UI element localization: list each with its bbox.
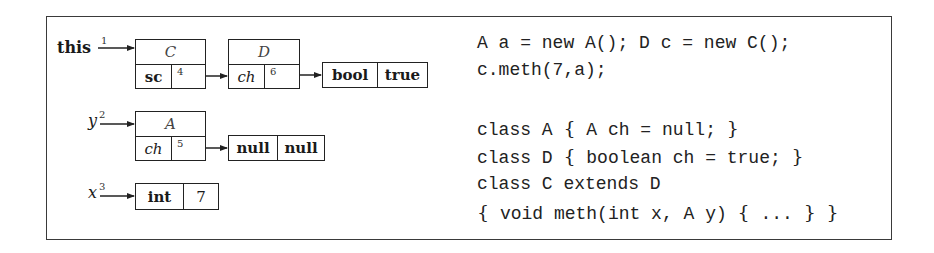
open-brace: { bbox=[563, 117, 575, 139]
object-a-class: A bbox=[136, 112, 205, 136]
close-brace: } bbox=[827, 201, 839, 223]
value-null-value: null bbox=[278, 136, 324, 160]
open-brace: { bbox=[563, 145, 575, 167]
open-brace: { bbox=[477, 201, 489, 223]
code-text: A ch = null; bbox=[576, 120, 727, 140]
value-int: int 7 bbox=[135, 183, 219, 210]
value-bool-value: true bbox=[378, 63, 427, 87]
code-line-2: c.meth(7,a); bbox=[477, 61, 607, 79]
close-brace: } bbox=[727, 117, 739, 139]
code-text: class A bbox=[477, 120, 563, 140]
value-bool: bool true bbox=[322, 62, 428, 88]
object-a: A ch 5 bbox=[135, 111, 206, 161]
code-line-class-c: class C extends D bbox=[477, 175, 661, 193]
divider bbox=[171, 64, 172, 88]
ref-y-index: 2 bbox=[99, 109, 105, 120]
ref-x-index: 3 bbox=[99, 181, 105, 192]
object-d-field-ref: 6 bbox=[270, 66, 276, 77]
ref-y-label: y bbox=[88, 111, 97, 130]
object-c-class: C bbox=[136, 40, 205, 64]
object-d-field-ch: ch bbox=[229, 65, 264, 88]
code-text: boolean ch = true; bbox=[576, 148, 792, 168]
code-text bbox=[816, 204, 827, 224]
object-d: D ch 6 bbox=[228, 39, 300, 89]
ref-this-label: this bbox=[57, 38, 91, 57]
value-int-value: 7 bbox=[184, 184, 218, 209]
value-bool-type: bool bbox=[323, 63, 377, 87]
code-text: void meth(int x, A y) bbox=[489, 204, 737, 224]
close-brace: } bbox=[804, 201, 816, 223]
value-int-type: int bbox=[136, 184, 183, 209]
ref-x-label: x bbox=[88, 183, 97, 202]
open-brace: { bbox=[738, 201, 750, 223]
object-c-field-ref: 4 bbox=[177, 66, 183, 77]
code-line-class-a: class A { A ch = null; } bbox=[477, 119, 739, 139]
code-line-1: A a = new A(); D c = new C(); bbox=[477, 34, 790, 52]
object-d-class: D bbox=[229, 40, 299, 64]
ref-this-text: this bbox=[57, 38, 91, 57]
code-line-class-d: class D { boolean ch = true; } bbox=[477, 147, 804, 167]
code-text: class D bbox=[477, 148, 563, 168]
close-brace: } bbox=[792, 145, 804, 167]
value-null: null null bbox=[228, 135, 325, 161]
divider bbox=[264, 64, 265, 88]
code-line-meth: { void meth(int x, A y) { ... } } bbox=[477, 203, 839, 223]
ref-y-text: y bbox=[88, 111, 97, 130]
value-null-type: null bbox=[229, 136, 277, 160]
object-c: C sc 4 bbox=[135, 39, 206, 89]
object-c-field-sc: sc bbox=[136, 65, 171, 88]
divider bbox=[171, 136, 172, 160]
code-text: ... bbox=[750, 204, 804, 224]
object-a-field-ref: 5 bbox=[177, 138, 183, 149]
object-a-field-ch: ch bbox=[136, 137, 171, 160]
ref-this-index: 1 bbox=[101, 35, 107, 46]
ref-x-text: x bbox=[88, 183, 97, 202]
